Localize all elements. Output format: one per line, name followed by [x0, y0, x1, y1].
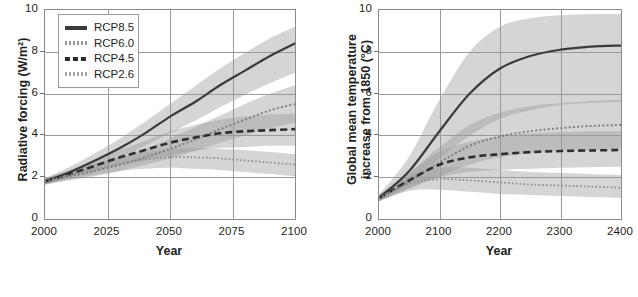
plot-inner-right — [379, 10, 621, 219]
x-axis-tick-label: 2300 — [535, 225, 585, 237]
x-axis-title: Year — [378, 244, 620, 258]
series-canvas-right — [379, 10, 621, 219]
x-axis-tick-label: 2000 — [353, 225, 403, 237]
y-axis-tick-mark — [374, 93, 379, 94]
x-axis-tick-label: 2100 — [414, 225, 464, 237]
y-axis-title-line: increase from 1850 (°C) — [359, 40, 373, 179]
x-axis-tick-label: 2200 — [474, 225, 524, 237]
y-axis-title: Global mean temperatureincrease from 185… — [345, 0, 373, 222]
y-axis-tick-mark — [374, 51, 379, 52]
x-axis-tick-label: 2400 — [595, 225, 638, 237]
plot-area-right — [378, 9, 622, 220]
y-axis-tick-mark — [374, 134, 379, 135]
y-axis-title-line: Global mean temperature — [345, 34, 359, 185]
y-axis-tick-mark — [374, 176, 379, 177]
